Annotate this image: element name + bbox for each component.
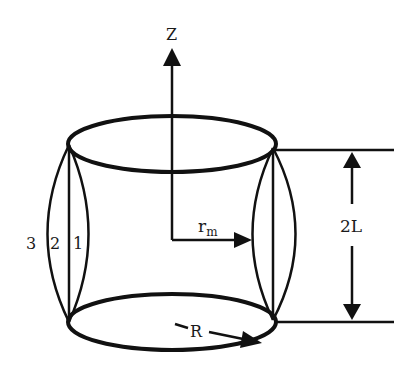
cylinder-diagram: Z 3 2 1 rm R 2L (0, 0, 416, 375)
z-arrowhead-icon (163, 48, 181, 66)
curve-2-label: 2 (50, 234, 60, 253)
rm-label: rm (198, 216, 218, 239)
z-axis-label: Z (166, 25, 177, 44)
curve-3-label: 3 (26, 234, 36, 253)
r-arrow (175, 324, 262, 348)
right-profile-curves (253, 148, 296, 320)
height-label: 2L (340, 216, 362, 236)
z-axis (163, 48, 181, 240)
r-label: R (190, 322, 203, 341)
curve-1-label: 1 (73, 234, 83, 253)
height-dimension (275, 150, 394, 322)
